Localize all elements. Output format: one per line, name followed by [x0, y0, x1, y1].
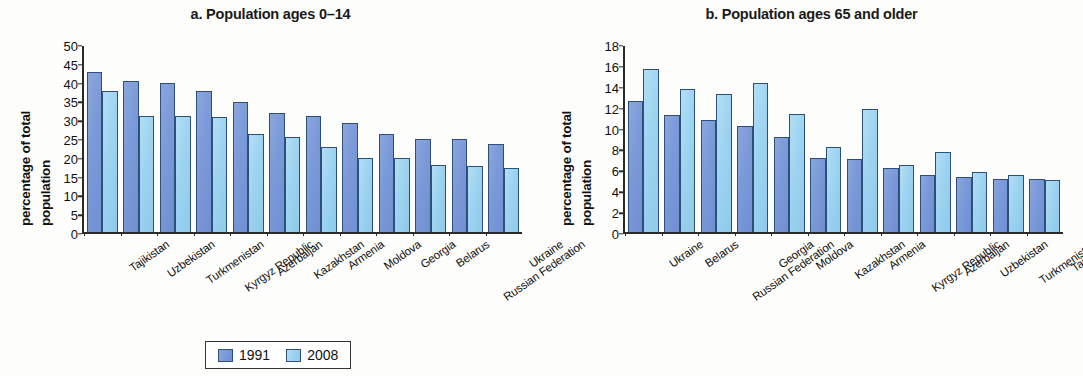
bar-group — [917, 46, 954, 232]
bar-2008 — [935, 152, 950, 233]
y-tick-label: 10 — [605, 123, 619, 136]
bar-group — [230, 46, 267, 232]
bar-2008 — [789, 114, 804, 233]
bar-1991 — [306, 116, 321, 233]
bar-1991 — [87, 72, 102, 232]
bar-group — [954, 46, 991, 232]
y-tick-label: 40 — [64, 77, 78, 90]
bar-1991 — [993, 179, 1008, 233]
bar-1991 — [269, 113, 284, 233]
bar-1991 — [701, 120, 716, 233]
bar-2008 — [321, 147, 336, 233]
chart-title-a: a. Population ages 0–14 — [0, 6, 541, 22]
x-axis-label: Ukraine — [667, 238, 705, 270]
bar-1991 — [810, 158, 825, 232]
bar-2008 — [102, 91, 117, 232]
y-tick-label: 35 — [64, 96, 78, 109]
bar-2008 — [753, 83, 768, 233]
bar-2008 — [248, 134, 263, 233]
y-tick-label: 6 — [612, 165, 619, 178]
bar-1991 — [956, 177, 971, 232]
x-axis-labels-b: UkraineBelarusRussian FederationGeorgiaM… — [625, 236, 1063, 346]
bar-1991 — [628, 101, 643, 232]
bar-2008 — [1045, 180, 1060, 232]
bar-1991 — [1029, 179, 1044, 232]
bar-group — [735, 46, 772, 232]
bar-1991 — [883, 168, 898, 233]
bar-group — [194, 46, 231, 232]
bar-1991 — [160, 83, 175, 233]
x-axis-labels-a: TajikistanUzbekistanTurkmenistanKyrgyz R… — [84, 236, 522, 346]
bar-2008 — [826, 147, 841, 233]
bar-group — [771, 46, 808, 232]
bar-2008 — [643, 69, 658, 232]
bar-group — [413, 46, 450, 232]
bar-group — [662, 46, 699, 232]
bar-1991 — [847, 159, 862, 232]
bar-1991 — [123, 81, 138, 233]
x-axis-line-b — [623, 232, 1063, 234]
bar-1991 — [774, 137, 789, 232]
chart-panel-a: a. Population ages 0–14 percentage of to… — [0, 0, 541, 376]
y-axis-title-line1-b: percentage of total — [559, 111, 574, 226]
chart-title-b: b. Population ages 65 and older — [541, 6, 1082, 22]
y-tick-label: 18 — [605, 40, 619, 53]
bar-group-container-a — [84, 46, 522, 232]
bar-1991 — [920, 175, 935, 233]
y-axis-title-b: percentage of total population — [543, 40, 589, 230]
legend-swatch-2008-icon-a — [286, 349, 301, 362]
bar-2008 — [972, 172, 987, 232]
y-tick-label: 10 — [64, 190, 78, 203]
bar-1991 — [664, 115, 679, 233]
y-tick-label: 0 — [612, 228, 619, 241]
plot-area-b: 024681012141618 — [593, 46, 1063, 234]
bar-2008 — [431, 165, 446, 232]
bar-group — [698, 46, 735, 232]
bar-1991 — [737, 126, 752, 232]
bar-1991 — [342, 123, 357, 232]
y-tick-label: 12 — [605, 102, 619, 115]
y-axis-ticks-b: 024681012141618 — [593, 46, 623, 234]
y-tick-label: 4 — [612, 186, 619, 199]
y-tick-label: 5 — [71, 209, 78, 222]
bar-group — [340, 46, 377, 232]
bar-group — [376, 46, 413, 232]
bar-1991 — [233, 102, 248, 233]
bar-group — [625, 46, 662, 232]
legend-item-1991-a: 1991 — [218, 347, 270, 363]
bar-group — [267, 46, 304, 232]
y-tick-label: 8 — [612, 144, 619, 157]
y-tick-label: 0 — [71, 228, 78, 241]
bar-group — [486, 46, 523, 232]
bar-group — [157, 46, 194, 232]
bar-2008 — [862, 109, 877, 232]
y-tick-label: 45 — [64, 58, 78, 71]
bar-2008 — [212, 117, 227, 232]
bar-2008 — [467, 166, 482, 232]
legend-swatch-1991-icon-a — [218, 349, 233, 362]
bar-1991 — [379, 134, 394, 232]
y-tick-label: 50 — [64, 40, 78, 53]
plot-area-a: 05101520253035404550 — [52, 46, 522, 234]
y-tick-label: 14 — [605, 81, 619, 94]
y-axis-ticks-a: 05101520253035404550 — [52, 46, 82, 234]
y-tick-label: 20 — [64, 152, 78, 165]
x-axis-label: Belarus — [703, 238, 741, 269]
x-axis-line-a — [82, 232, 522, 234]
bar-2008 — [716, 94, 731, 232]
bar-1991 — [488, 144, 503, 233]
bar-group-container-b — [625, 46, 1063, 232]
legend-item-2008-a: 2008 — [286, 347, 338, 363]
chart-panel-b: b. Population ages 65 and older percenta… — [541, 0, 1082, 376]
bar-1991 — [452, 139, 467, 232]
bar-2008 — [394, 158, 409, 232]
legend-a: 1991 2008 — [205, 341, 351, 369]
bar-group — [1027, 46, 1064, 232]
bar-2008 — [680, 89, 695, 233]
y-axis-title-line2-b: population — [579, 160, 594, 226]
x-axis-label: Georgia — [418, 238, 457, 270]
bar-1991 — [196, 91, 211, 232]
bar-2008 — [899, 165, 914, 232]
y-axis-title-line2-a: population — [38, 160, 53, 226]
bar-group — [121, 46, 158, 232]
